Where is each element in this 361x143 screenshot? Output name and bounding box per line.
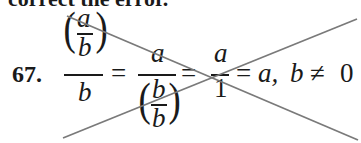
strike-through-cross bbox=[0, 0, 361, 143]
